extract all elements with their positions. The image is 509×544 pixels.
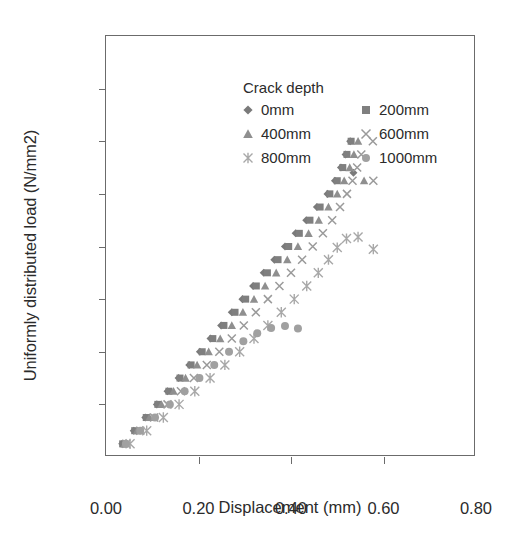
- x-axis-tick: [384, 457, 385, 464]
- y-axis-tick: [99, 247, 106, 248]
- data-point: [285, 243, 292, 250]
- chart-figure: Uniformly distributed load (N/mm2) Crack…: [0, 0, 509, 544]
- legend-item-200mm: 200mm: [359, 101, 477, 118]
- data-point: [166, 400, 174, 408]
- legend-label: 400mm: [261, 126, 311, 141]
- data-point: [342, 233, 351, 243]
- data-point: [296, 230, 303, 237]
- data-point: [210, 361, 218, 369]
- data-point: [253, 329, 261, 337]
- data-point: [261, 282, 269, 290]
- data-point: [232, 309, 239, 316]
- data-point: [264, 295, 272, 303]
- data-point: [283, 255, 291, 263]
- data-point: [199, 348, 206, 355]
- data-point: [340, 177, 348, 185]
- legend-title: Crack depth: [243, 80, 481, 95]
- data-point: [298, 256, 306, 264]
- legend-item-1000mm: 1000mm: [359, 149, 477, 166]
- data-point: [324, 203, 332, 211]
- diamond-icon: [241, 103, 255, 117]
- legend-label: 600mm: [379, 126, 429, 141]
- legend-label: 1000mm: [379, 150, 437, 165]
- data-point: [235, 347, 244, 357]
- data-point: [309, 243, 317, 251]
- data-point: [369, 244, 378, 254]
- data-point: [360, 177, 368, 185]
- plot-area: Crack depth 0mm200mm400mm600mm800mm1000m…: [105, 35, 475, 456]
- series-800mm: [126, 232, 378, 449]
- data-point: [319, 229, 327, 237]
- x-axis-tick: [291, 457, 292, 464]
- data-point: [287, 269, 295, 277]
- data-point: [343, 190, 351, 198]
- y-axis-tick: [99, 352, 106, 353]
- data-point: [317, 204, 324, 211]
- x-axis-tick: [199, 457, 200, 464]
- data-point: [175, 399, 184, 409]
- data-point: [239, 308, 247, 316]
- y-axis-tick: [99, 89, 106, 90]
- legend-item-800mm: 800mm: [241, 149, 359, 166]
- data-point: [324, 254, 333, 264]
- y-axis-tick: [99, 194, 106, 195]
- data-point: [240, 321, 248, 329]
- data-point: [190, 386, 199, 396]
- legend-item-0mm: 0mm: [241, 101, 359, 118]
- data-point: [136, 427, 144, 435]
- data-point: [306, 217, 313, 224]
- data-point: [304, 229, 312, 237]
- data-point: [277, 307, 286, 317]
- data-point: [181, 387, 189, 395]
- data-point: [275, 256, 282, 263]
- data-point: [333, 190, 341, 198]
- data-point: [206, 373, 215, 383]
- data-point: [216, 334, 224, 342]
- data-point: [228, 335, 236, 343]
- data-point: [354, 232, 363, 242]
- data-point: [315, 216, 323, 224]
- data-point: [220, 322, 227, 329]
- data-point: [290, 294, 299, 304]
- data-point: [220, 360, 229, 370]
- y-axis-tick: [99, 299, 106, 300]
- data-point: [151, 414, 159, 422]
- data-point: [209, 335, 216, 342]
- data-point: [349, 177, 357, 185]
- series-200mm: [119, 138, 354, 448]
- data-point: [250, 295, 258, 303]
- data-point: [275, 282, 283, 290]
- data-point: [204, 348, 212, 356]
- legend-label: 0mm: [261, 102, 294, 117]
- data-point: [252, 308, 260, 316]
- square-icon: [359, 103, 373, 117]
- data-point: [314, 268, 323, 278]
- data-point: [239, 337, 247, 345]
- data-point: [328, 216, 336, 224]
- data-point: [272, 269, 280, 277]
- data-point: [253, 282, 260, 289]
- data-point: [294, 242, 302, 250]
- data-point: [267, 324, 275, 332]
- data-point: [203, 361, 211, 369]
- data-point: [334, 177, 341, 184]
- data-point: [159, 412, 168, 422]
- legend: Crack depth 0mm200mm400mm600mm800mm1000m…: [241, 80, 481, 166]
- star-icon: [241, 151, 255, 165]
- legend-label: 800mm: [261, 150, 311, 165]
- data-point: [264, 269, 271, 276]
- data-point: [225, 348, 233, 356]
- data-point: [326, 190, 333, 197]
- circle-icon: [359, 151, 373, 165]
- data-point: [281, 322, 289, 330]
- legend-item-400mm: 400mm: [241, 125, 359, 142]
- data-point: [122, 440, 130, 448]
- legend-label: 200mm: [379, 102, 429, 117]
- data-point: [228, 321, 236, 329]
- data-point: [195, 374, 203, 382]
- data-point: [302, 281, 311, 291]
- data-point: [294, 325, 302, 333]
- data-point: [215, 348, 223, 356]
- y-axis-tick: [99, 404, 106, 405]
- legend-items: 0mm200mm400mm600mm800mm1000mm: [241, 101, 481, 166]
